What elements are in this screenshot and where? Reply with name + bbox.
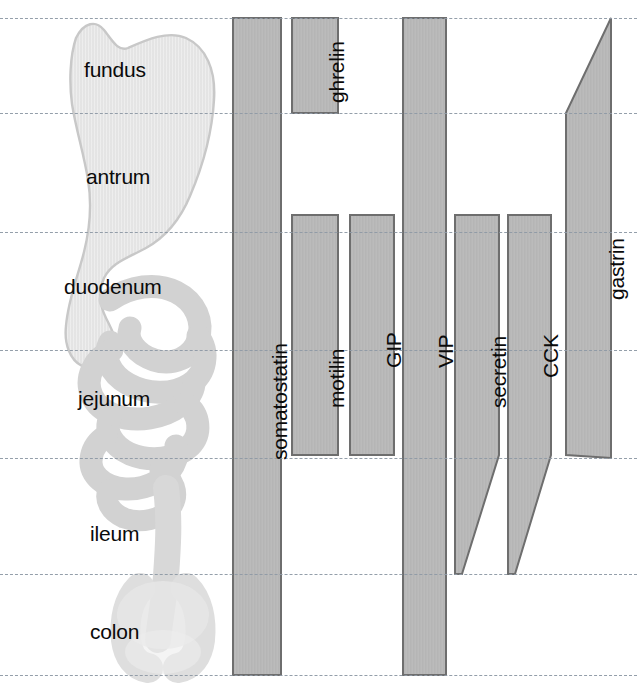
- region-label-colon: colon: [90, 620, 139, 644]
- bar-label-vip: VIP: [434, 335, 458, 368]
- bar-cck[interactable]: [508, 215, 551, 574]
- region-label-jejunum: jejunum: [78, 387, 150, 411]
- bar-label-ghrelin: ghrelin: [325, 41, 349, 103]
- bar-label-secretin: secretin: [487, 336, 511, 408]
- gridline-jejunum-ileum: [0, 458, 637, 459]
- region-label-ileum: ileum: [90, 522, 139, 546]
- region-label-duodenum: duodenum: [64, 275, 162, 299]
- bar-label-motilin: motilin: [325, 349, 349, 408]
- bar-label-cck: CCK: [539, 334, 563, 378]
- bar-label-gip: GIP: [382, 332, 406, 368]
- bar-motilin[interactable]: [292, 215, 338, 455]
- gridline-antrum-duodenum: [0, 232, 637, 233]
- gi-hormone-distribution-figure: fundus antrum duodenum jejunum ileum col…: [0, 0, 637, 689]
- gridline-fundus-antrum: [0, 113, 637, 114]
- bar-label-gastrin: gastrin: [605, 238, 629, 300]
- bar-label-somatostatin: somatostatin: [268, 343, 292, 460]
- gridline-ileum-colon: [0, 574, 637, 575]
- gridline-bottom: [0, 675, 637, 676]
- region-label-fundus: fundus: [84, 58, 146, 82]
- region-label-antrum: antrum: [86, 165, 150, 189]
- gridline-top: [0, 18, 637, 19]
